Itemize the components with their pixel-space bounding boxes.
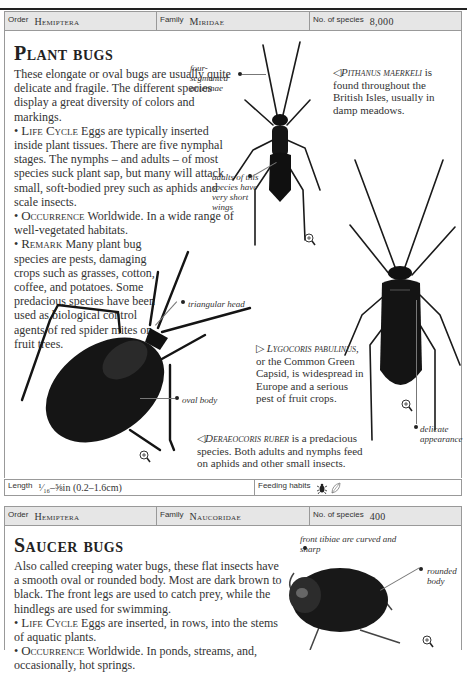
annotation-dot: [303, 546, 307, 550]
section-heading: Life Cycle: [21, 615, 78, 630]
length-label: Length: [8, 481, 32, 490]
section-heading: Occurrence: [21, 208, 84, 223]
saucer-bugs-classification-bar: Order Hemiptera Family Naucoridae No. of…: [4, 506, 462, 526]
species-name: Deraeocoris ruber: [205, 432, 289, 444]
leader-line: [242, 74, 266, 75]
annotation-antennae: four-segmented antennae: [190, 63, 235, 93]
plant-bugs-footer-bar: Length ¹⁄₁₆–⅝in (0.2–1.6cm) Feeding habi…: [4, 479, 462, 496]
family-label: Family: [160, 510, 184, 519]
caption-lygocoris: ▷ Lygocoris pabulinus, or the Common Gre…: [256, 342, 366, 405]
annotation-dot: [181, 300, 185, 304]
plant-bugs-title: Plant bugs: [14, 42, 113, 65]
magnify-icon: [400, 398, 414, 412]
length-cell: Length ¹⁄₁₆–⅝in (0.2–1.6cm): [5, 480, 255, 495]
caption-pithanus: ◁Pithanus maerkeli is found throughout t…: [333, 66, 453, 116]
species-count-cell: No. of species 400: [310, 507, 461, 525]
saucer-bugs-section-occurrence: • Occurrence Worldwide. In ponds, stream…: [14, 644, 284, 672]
species-count-value: 8,000: [370, 16, 394, 27]
order-label: Order: [8, 15, 28, 24]
plant-bugs-section-life-cycle: • Life Cycle Eggs are typically inserted…: [14, 124, 234, 209]
order-cell: Order Hemiptera: [5, 507, 157, 525]
annotation-short-wings: adults of this species have very short w…: [212, 172, 260, 212]
species-count-label: No. of species: [313, 510, 364, 519]
plant-leaf-icon: [330, 482, 342, 494]
section-heading: Life Cycle: [21, 123, 78, 138]
annotation-dot: [175, 396, 179, 400]
magnify-icon: [303, 232, 317, 246]
leader-line: [140, 398, 175, 399]
family-label: Family: [160, 15, 184, 24]
species-count-label: No. of species: [313, 15, 364, 24]
saucer-bugs-title: Saucer bugs: [14, 534, 124, 557]
order-value: Hemiptera: [34, 16, 79, 27]
magnify-icon: [138, 449, 152, 463]
family-value: Naucoridae: [190, 511, 241, 522]
saucer-bugs-intro: Also called creeping water bugs, these f…: [14, 559, 284, 616]
order-label: Order: [8, 510, 28, 519]
annotation-front-tibiae: front tibiae are curved and sharp: [300, 534, 410, 554]
annotation-triangular-head: triangular head: [188, 299, 258, 309]
magnify-icon: [421, 634, 435, 648]
species-count-cell: No. of species 8,000: [310, 12, 461, 30]
annotation-rounded-body: rounded body: [427, 566, 467, 586]
saucer-bug-image: [280, 555, 420, 650]
leader-line: [416, 300, 417, 424]
family-cell: Family Naucoridae: [157, 507, 310, 525]
species-count-value: 400: [370, 511, 386, 522]
plant-bugs-classification-bar: Order Hemiptera Family Miridae No. of sp…: [4, 11, 462, 31]
annotation-dot: [414, 425, 418, 429]
family-value: Miridae: [190, 16, 225, 27]
feeding-habits-cell: Feeding habits: [255, 480, 461, 495]
saucer-bugs-section-life-cycle: • Life Cycle Eggs are inserted, in rows,…: [14, 616, 284, 644]
annotation-delicate: delicate appearance: [420, 424, 460, 444]
length-value: ¹⁄₁₆–⅝in (0.2–1.6cm): [38, 482, 121, 493]
family-cell: Family Miridae: [157, 12, 310, 30]
deraeocoris-ruber-image: [10, 250, 255, 460]
page-top-rule: [0, 0, 467, 10]
saucer-bugs-description: Also called creeping water bugs, these f…: [14, 559, 284, 673]
plant-bugs-section-occurrence: • Occurrence Worldwide. In a wide range …: [14, 209, 234, 237]
caption-deraeocoris: ◁Deraeocoris ruber is a predacious speci…: [197, 432, 367, 470]
annotation-oval-body: oval body: [182, 395, 232, 405]
feeding-habits-label: Feeding habits: [258, 481, 310, 490]
section-heading: Occurrence: [21, 643, 84, 658]
species-name: Lygocoris pabulinus,: [267, 342, 359, 354]
species-name: Pithanus maerkeli: [341, 66, 422, 78]
order-value: Hemiptera: [34, 511, 79, 522]
predator-bug-icon: [316, 482, 328, 494]
order-cell: Order Hemiptera: [5, 12, 157, 30]
